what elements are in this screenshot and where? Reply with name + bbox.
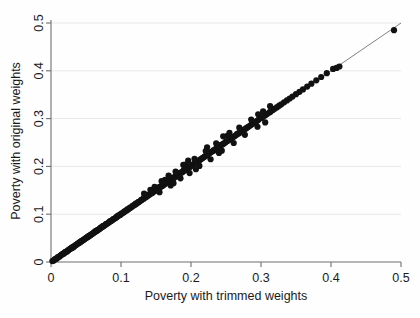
data-points-group [49,27,397,264]
data-point [254,124,260,130]
data-point [236,125,242,131]
data-point [262,119,268,125]
data-point [166,172,172,178]
gridlines-group [51,23,401,214]
data-point [226,130,232,136]
y-tick-label: 0 [32,258,46,265]
data-point [170,180,176,186]
data-point [204,144,210,150]
x-tick-labels-group: 00.10.20.30.40.5 [48,271,410,285]
data-point [216,150,222,156]
x-tick-label: 0.4 [322,271,339,285]
data-point [159,178,165,184]
x-tick-label: 0.3 [252,271,269,285]
x-tick-label: 0.1 [112,271,129,285]
data-point [324,70,330,76]
data-point [248,116,254,122]
plot-canvas: 00.10.20.30.40.5 00.10.20.30.40.5 Povert… [0,0,420,318]
data-point [213,140,219,146]
y-tick-label: 0.3 [32,110,46,127]
x-tick-marks-group [51,262,401,267]
data-point [220,133,226,139]
y-axis-title: Poverty with original weights [9,62,23,220]
data-point [177,175,183,181]
y-tick-label: 0.2 [32,158,46,175]
data-point [191,156,197,162]
data-point [318,74,324,80]
x-tick-label: 0.5 [392,271,409,285]
x-axis-title: Poverty with trimmed weights [145,289,308,303]
y-tick-labels-group: 00.10.20.30.40.5 [32,14,46,265]
data-point [185,158,191,164]
data-point [267,103,273,109]
y-tick-label: 0.4 [32,62,46,79]
data-point [336,63,342,69]
data-point [255,111,261,117]
y-tick-marks-group [46,23,51,262]
data-point [173,169,179,175]
data-point [391,27,397,33]
data-point [187,170,193,176]
x-tick-label: 0.2 [182,271,199,285]
scatter-plot-figure: 00.10.20.30.40.5 00.10.20.30.40.5 Povert… [0,0,420,318]
x-tick-label: 0 [48,271,55,285]
data-point [141,191,147,197]
y-tick-label: 0.5 [32,14,46,31]
data-point [208,156,214,162]
data-point [193,166,199,172]
y-tick-label: 0.1 [32,205,46,222]
data-point [180,162,186,168]
data-point [242,132,248,138]
data-point [152,184,158,190]
data-point [231,140,237,146]
data-point [156,189,162,195]
